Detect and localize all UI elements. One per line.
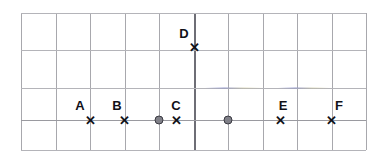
grid-line-vertical-7: [263, 13, 264, 150]
grid-line-horizontal-0: [21, 13, 366, 14]
point-marker-a: ✕: [85, 114, 96, 127]
grid-line-horizontal-axis: [21, 120, 366, 121]
grid-line-vertical-2: [90, 13, 91, 150]
point-marker-d: ✕: [189, 41, 200, 54]
point-label-b: B: [112, 99, 121, 112]
grid-line-vertical-1: [56, 13, 57, 150]
point-marker-e: ✕: [275, 114, 286, 127]
reference-dot-right: [224, 116, 233, 125]
grid-line-vertical-6: [228, 13, 229, 150]
point-label-a: A: [75, 99, 84, 112]
grid-line-vertical-8: [297, 13, 298, 150]
grid-line-horizontal-4: [21, 150, 366, 151]
point-label-f: F: [335, 99, 343, 112]
grid-line-vertical-0: [21, 13, 22, 150]
point-marker-f: ✕: [326, 114, 337, 127]
grid-line-vertical-origin: [194, 13, 196, 150]
point-label-c: C: [171, 99, 180, 112]
reference-dot-left: [155, 116, 164, 125]
grid-line-horizontal-2: [21, 88, 366, 89]
number-line-figure: ✕A✕B✕C✕D✕E✕F: [0, 0, 386, 161]
point-marker-c: ✕: [171, 114, 182, 127]
grid-line-vertical-10: [366, 13, 367, 150]
grid-line-vertical-4: [159, 13, 160, 150]
grid-line-vertical-9: [332, 13, 333, 150]
point-label-d: D: [179, 27, 188, 40]
point-marker-b: ✕: [119, 114, 130, 127]
point-label-e: E: [279, 99, 288, 112]
grid-line-vertical-3: [125, 13, 126, 150]
